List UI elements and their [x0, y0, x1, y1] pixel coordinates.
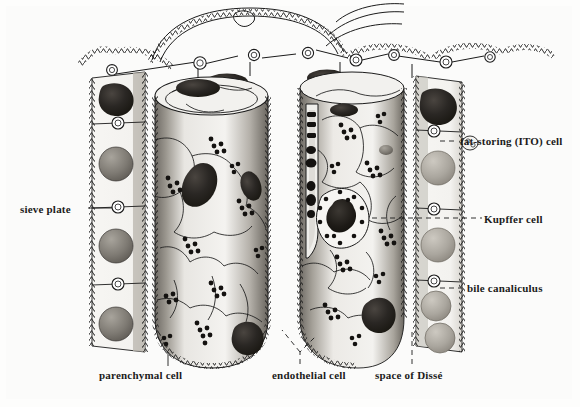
label-endothelial-cell: endothelial cell: [272, 369, 346, 381]
label-kupffer-cell: Kupffer cell: [484, 213, 543, 225]
label-space-of-disse: space of Dissé: [375, 369, 443, 381]
bile-canaliculus-channel: [306, 104, 319, 258]
label-fat-storing-ito-cell: fat-storing (ITO) cell: [460, 135, 563, 147]
label-sieve-plate: sieve plate: [20, 203, 71, 215]
label-parenchymal-cell: parenchymal cell: [99, 369, 182, 381]
central-sinusoid-lumen: [155, 77, 268, 368]
hepatocyte-plate-right: [416, 76, 462, 353]
hepatocyte-plate-left: [92, 72, 145, 352]
liver-diagram-artwork: [0, 0, 580, 407]
kupffer-cell: [316, 189, 368, 249]
label-bile-canaliculus: bile canaliculus: [467, 282, 543, 294]
right-sinusoid-space: [300, 72, 404, 368]
liver-sinusoid-figure: sieve plate fat-storing (ITO) cell Kupff…: [0, 0, 580, 407]
